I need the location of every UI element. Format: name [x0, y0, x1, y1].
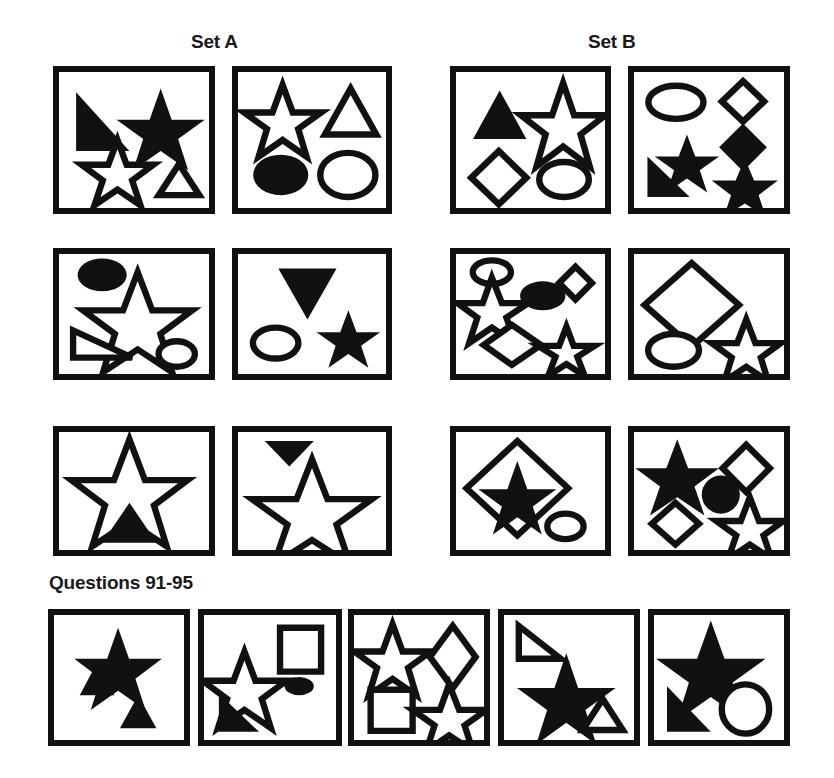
square-outline-shape — [371, 690, 413, 731]
diamond-outline-small-shape — [722, 81, 764, 121]
panel-question-91[interactable] — [48, 609, 190, 746]
star-filled-shape — [712, 158, 778, 208]
panel-set-a-r1-c1[interactable] — [53, 66, 215, 214]
square-outline-shape — [280, 628, 321, 672]
star-outline-small-shape — [538, 327, 594, 374]
ellipse-outline-small-shape — [159, 341, 195, 366]
test-page: Set A Set B — [0, 0, 834, 778]
star-outline-shape — [712, 319, 781, 374]
ellipse-outline-shape — [648, 334, 699, 367]
star-outline-shape — [204, 651, 286, 728]
ellipse-outline-shape — [253, 328, 298, 359]
panel-set-b-r2-c1[interactable] — [450, 248, 611, 380]
panel-question-93[interactable] — [348, 609, 490, 746]
ellipse-filled-shape — [78, 259, 127, 292]
ellipse-filled-shape — [253, 155, 308, 195]
star-filled-shape — [74, 628, 162, 710]
ellipse-filled-small-shape — [285, 677, 314, 695]
right-triangle-outline-shape — [519, 626, 561, 659]
ellipse-outline-shape — [722, 684, 769, 733]
set-a-heading: Set A — [191, 31, 238, 53]
ellipse-outline-shape — [320, 153, 375, 197]
star-outline-shape — [244, 85, 321, 157]
panel-set-a-r2-c2[interactable] — [232, 248, 392, 380]
triangle-down-filled-shape — [278, 269, 336, 320]
star-outline-large-shape — [252, 459, 372, 550]
panel-set-a-r2-c1[interactable] — [53, 248, 215, 380]
panel-set-b-r3-c1[interactable] — [450, 426, 611, 556]
panel-set-b-r1-c2[interactable] — [628, 66, 790, 214]
set-b-heading: Set B — [588, 31, 636, 53]
panel-set-a-r3-c2[interactable] — [232, 426, 392, 556]
questions-heading: Questions 91-95 — [49, 572, 193, 594]
triangle-outline-shape — [325, 89, 376, 135]
ellipse-outline-shape — [648, 86, 703, 119]
panel-set-a-r3-c1[interactable] — [53, 426, 215, 556]
panel-question-95[interactable] — [648, 609, 790, 746]
star-outline-shape — [521, 83, 605, 167]
panel-question-94[interactable] — [498, 609, 640, 746]
panel-set-a-r1-c2[interactable] — [232, 66, 392, 214]
panel-question-92[interactable] — [198, 609, 342, 746]
panel-set-b-r2-c2[interactable] — [628, 248, 790, 380]
circle-filled-shape — [702, 476, 740, 514]
panel-set-b-r1-c1[interactable] — [450, 66, 611, 214]
diamond-outline-shape — [430, 626, 476, 688]
ellipse-outline-small-shape — [547, 514, 583, 539]
star-filled-shape — [317, 310, 381, 367]
ellipse-outline-shape — [539, 162, 589, 197]
triangle-outline-shape — [159, 164, 199, 195]
star-outline-shape-1 — [354, 624, 431, 695]
panel-set-b-r3-c2[interactable] — [628, 426, 790, 556]
triangle-down-filled-shape — [265, 441, 314, 466]
diamond-outline-shape — [471, 151, 526, 204]
triangle-filled-shape-2 — [120, 695, 156, 728]
star-outline-shape-2 — [413, 684, 484, 740]
star-filled-shape — [117, 89, 205, 171]
